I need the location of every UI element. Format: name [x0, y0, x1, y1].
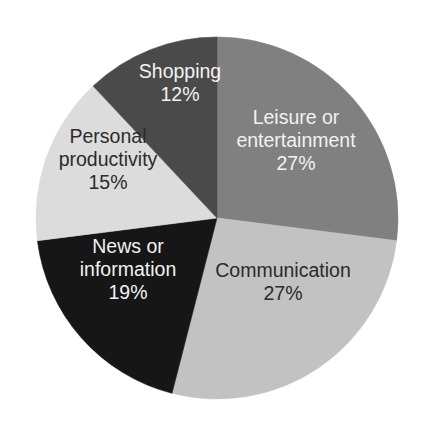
pie-slice-value-leisure-or-entertainment: 27% — [276, 152, 315, 174]
pie-slice-value-shopping: 12% — [160, 83, 199, 105]
pie-slice-layer — [36, 37, 398, 399]
pie-slice-label-personal-productivity: productivity — [59, 148, 158, 170]
pie-chart: Leisure orentertainment27%Communication2… — [0, 0, 434, 428]
pie-slice-label-leisure-or-entertainment: Leisure or — [253, 106, 340, 128]
pie-slice-label-news-or-information: News or — [92, 235, 164, 257]
pie-slice-label-personal-productivity: Personal — [70, 125, 147, 147]
pie-chart-svg: Leisure orentertainment27%Communication2… — [0, 0, 434, 428]
pie-slice-value-news-or-information: 19% — [108, 281, 147, 303]
pie-slice-label-shopping: Shopping — [139, 60, 221, 82]
pie-slice-label-news-or-information: information — [80, 258, 176, 280]
pie-slice-label-leisure-or-entertainment: entertainment — [236, 129, 356, 151]
pie-slice-value-personal-productivity: 15% — [88, 171, 127, 193]
pie-slice-label-communication: Communication — [215, 259, 350, 281]
pie-slice-value-communication: 27% — [263, 282, 302, 304]
